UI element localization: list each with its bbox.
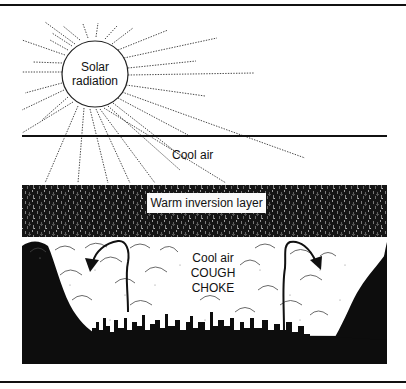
bottom-border	[0, 381, 406, 383]
inversion-layer-label: Warm inversion layer	[147, 193, 266, 213]
inversion-diagram: Solar radiation Cool air Warm inversion …	[0, 0, 406, 389]
sun-label-line-2: radiation	[70, 74, 120, 88]
horizon-line	[22, 135, 387, 137]
trapped-air-line-2: COUGH	[183, 266, 243, 281]
top-border	[0, 4, 406, 6]
trapped-air-line-3: CHOKE	[183, 281, 243, 296]
trapped-air-label: Cool air COUGH CHOKE	[183, 251, 243, 296]
trapped-air-line-1: Cool air	[183, 251, 243, 266]
sun-label-line-1: Solar	[70, 60, 120, 74]
sun-rays	[22, 22, 305, 183]
upper-cool-air-label: Cool air	[172, 148, 213, 162]
sun-label: Solar radiation	[70, 60, 120, 88]
